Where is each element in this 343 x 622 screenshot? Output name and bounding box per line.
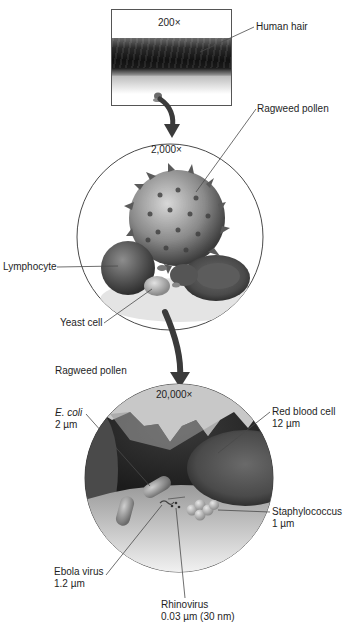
magnification-2000x: 2,000× — [151, 144, 182, 155]
label-human-hair: Human hair — [256, 21, 308, 33]
label-e-coli: E. coli — [55, 407, 82, 419]
label-staphylococcus-size: 1 µm — [272, 518, 294, 530]
label-rhinovirus-size: 0.03 µm (30 nm) — [161, 611, 235, 622]
panel-2000x-illustration — [77, 144, 263, 330]
magnification-20000x: 20,000× — [156, 389, 192, 400]
label-red-blood-cell-size: 12 µm — [272, 418, 300, 430]
label-rhinovirus: Rhinovirus — [161, 599, 208, 611]
label-red-blood-cell: Red blood cell — [272, 406, 335, 418]
label-staphylococcus: Staphylococcus — [272, 506, 342, 518]
label-ebola-virus: Ebola virus — [54, 566, 103, 578]
label-yeast-cell: Yeast cell — [60, 317, 102, 329]
label-ragweed-pollen: Ragweed pollen — [257, 103, 329, 115]
label-lymphocyte: Lymphocyte — [3, 261, 57, 273]
label-e-coli-size: 2 µm — [55, 419, 77, 431]
label-ebola-virus-size: 1.2 µm — [54, 578, 85, 590]
label-ragweed-pollen-20000x: Ragweed pollen — [55, 365, 127, 377]
